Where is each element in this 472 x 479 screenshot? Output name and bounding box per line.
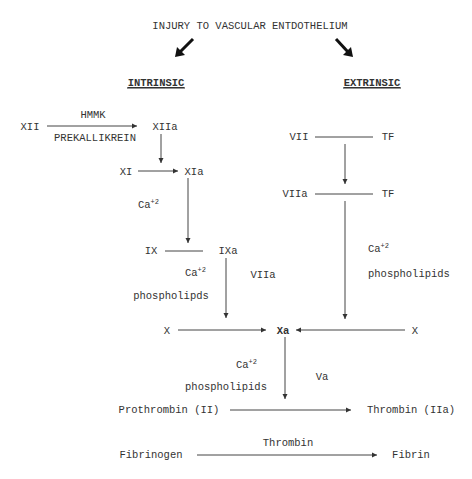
arrow-to-extrinsic-icon bbox=[336, 39, 353, 57]
fibrinogen-label: Fibrinogen bbox=[119, 449, 182, 461]
factor-viia: VIIa bbox=[282, 188, 307, 200]
factor-xia: XIa bbox=[185, 166, 204, 178]
factor-x-left: X bbox=[164, 325, 171, 337]
diagram-title: INJURY TO VASCULAR ENTDOTHELIUM bbox=[152, 20, 347, 32]
factor-xi: XI bbox=[120, 166, 133, 178]
intrinsic-heading: INTRINSIC bbox=[128, 77, 185, 89]
factor-x-right: X bbox=[412, 325, 419, 337]
calcium-label-2: Ca+2 bbox=[185, 266, 206, 279]
factor-ixa: IXa bbox=[219, 245, 238, 257]
prekallikrein-label: PREKALLIKREIN bbox=[54, 132, 136, 144]
phospholipids-label-common: phospholipids bbox=[185, 381, 267, 393]
coagulation-cascade-diagram: INJURY TO VASCULAR ENTDOTHELIUM INTRINSI… bbox=[0, 0, 472, 479]
factor-xii: XII bbox=[21, 121, 40, 133]
calcium-label-extrinsic: Ca+2 bbox=[368, 242, 389, 255]
calcium-label-1: Ca+2 bbox=[138, 198, 159, 211]
prothrombin-label: Prothrombin (II) bbox=[119, 404, 220, 416]
phospholipids-label-extrinsic: phospholipids bbox=[368, 268, 450, 280]
factor-vii: VII bbox=[290, 131, 309, 143]
tissue-factor-2: TF bbox=[382, 188, 395, 200]
extrinsic-heading: EXTRINSIC bbox=[344, 77, 401, 89]
phospholipids-label-intrinsic: phospholipds bbox=[133, 290, 209, 302]
thrombin-label: Thrombin (IIa) bbox=[367, 404, 455, 416]
thrombin-enzyme-label: Thrombin bbox=[263, 437, 313, 449]
factor-xa: Xa bbox=[277, 325, 290, 337]
va-cofactor-label: Va bbox=[316, 371, 329, 383]
calcium-label-common: Ca+2 bbox=[236, 358, 257, 371]
tissue-factor-1: TF bbox=[382, 131, 395, 143]
arrow-to-intrinsic-icon bbox=[175, 39, 193, 57]
fibrin-label: Fibrin bbox=[392, 449, 430, 461]
factor-xiia: XIIa bbox=[152, 121, 177, 133]
hmmk-label: HMMK bbox=[80, 109, 106, 121]
viia-cofactor-label: VIIa bbox=[250, 269, 275, 281]
factor-ix: IX bbox=[145, 245, 158, 257]
